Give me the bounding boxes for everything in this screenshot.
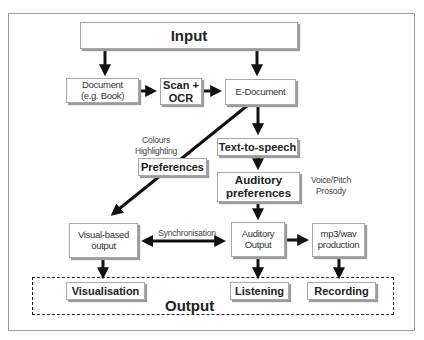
listening-node: Listening	[230, 282, 289, 300]
auditory-output-line1: Auditory	[242, 229, 274, 240]
mp3-production-line2: production	[318, 240, 359, 251]
preferences-node: Preferences	[138, 158, 207, 176]
input-node: Input	[80, 22, 298, 49]
auditory-preferences-node: Auditory preferences	[217, 172, 300, 202]
preferences-note: Colours Highlighting	[132, 135, 180, 156]
visual-output-node: Visual-based output	[69, 223, 138, 258]
listening-label: Listening	[235, 285, 284, 298]
visualisation-node: Visualisation	[66, 282, 145, 300]
auditory-preferences-line1: Auditory	[235, 174, 282, 187]
text-to-speech-node: Text-to-speech	[217, 138, 298, 156]
visual-output-line2: output	[91, 241, 116, 252]
auditory-output-line2: Output	[245, 240, 272, 251]
e-document-node: E-Document	[225, 79, 296, 105]
recording-node: Recording	[307, 282, 376, 300]
visual-output-line1: Visual-based	[78, 230, 129, 241]
scan-ocr-node: Scan + OCR	[160, 78, 202, 105]
synchronisation-label: Synchronisation	[152, 228, 222, 239]
preferences-label: Preferences	[141, 161, 204, 174]
text-to-speech-label: Text-to-speech	[219, 141, 296, 154]
recording-label: Recording	[314, 285, 368, 298]
visualisation-label: Visualisation	[72, 285, 140, 298]
document-label-line1: Document	[82, 80, 123, 91]
document-label-line2: (e.g. Book)	[81, 91, 124, 102]
auditory-preferences-line2: preferences	[226, 187, 291, 200]
preferences-note-line2: Highlighting	[132, 146, 180, 157]
auditory-note-line1: Voice/Pitch	[305, 175, 357, 186]
auditory-note-line2: Prosody	[305, 186, 357, 197]
input-label: Input	[171, 27, 208, 44]
preferences-note-line1: Colours	[132, 135, 180, 146]
mp3-production-node: mp3/wav production	[312, 223, 365, 257]
output-group-label: Output	[165, 297, 214, 314]
document-node: Document (e.g. Book)	[66, 78, 139, 103]
auditory-note: Voice/Pitch Prosody	[305, 175, 357, 196]
e-document-label: E-Document	[236, 87, 286, 98]
auditory-output-node: Auditory Output	[231, 222, 285, 257]
scan-ocr-label-line2: OCR	[169, 92, 193, 105]
scan-ocr-label-line1: Scan +	[163, 79, 199, 92]
